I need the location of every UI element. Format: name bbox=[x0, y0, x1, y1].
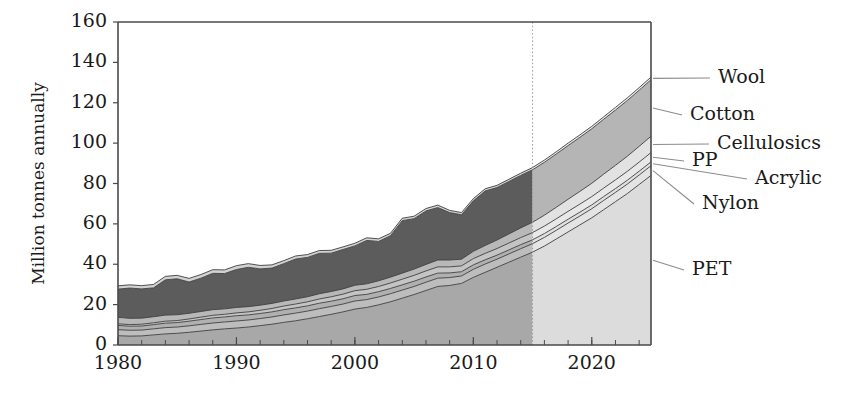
y-tick-label: 140 bbox=[71, 49, 107, 71]
chart-canvas: 020406080100120140160 198019902000201020… bbox=[0, 0, 848, 404]
x-tick-label: 2000 bbox=[331, 351, 379, 373]
plot-areas bbox=[118, 77, 651, 345]
leader-line-pet bbox=[653, 260, 684, 270]
y-tick-label: 160 bbox=[71, 9, 107, 31]
series-label-nylon: Nylon bbox=[702, 191, 759, 213]
x-tick-label: 2020 bbox=[568, 351, 616, 373]
leader-line-nylon bbox=[653, 171, 694, 204]
y-tick-label: 100 bbox=[71, 130, 107, 152]
series-label-acrylic: Acrylic bbox=[754, 166, 822, 188]
y-tick-label: 120 bbox=[71, 90, 107, 112]
y-axis-ticks: 020406080100120140160 bbox=[71, 9, 118, 354]
series-label-pp: PP bbox=[692, 148, 718, 170]
x-tick-label: 1990 bbox=[212, 351, 260, 373]
leader-line-cotton bbox=[653, 108, 682, 115]
y-tick-label: 60 bbox=[83, 211, 107, 233]
series-callouts: WoolCottonCellulosicsPPAcrylicNylonPET bbox=[653, 65, 822, 279]
y-tick-label: 80 bbox=[83, 171, 107, 193]
x-tick-label: 1980 bbox=[94, 351, 142, 373]
leader-line-pp bbox=[653, 157, 684, 161]
series-label-pet: PET bbox=[692, 257, 732, 279]
y-axis-title: Million tonnes annually bbox=[28, 82, 48, 285]
x-tick-label: 2010 bbox=[449, 351, 497, 373]
stacked-area-chart: 020406080100120140160 198019902000201020… bbox=[0, 0, 848, 404]
y-tick-label: 20 bbox=[83, 292, 107, 314]
series-label-cellulosics: Cellulosics bbox=[717, 131, 821, 153]
y-tick-label: 40 bbox=[83, 251, 107, 273]
y-axis-title: Million tonnes annually bbox=[28, 82, 48, 285]
series-label-wool: Wool bbox=[718, 65, 765, 87]
series-label-cotton: Cotton bbox=[690, 102, 755, 124]
